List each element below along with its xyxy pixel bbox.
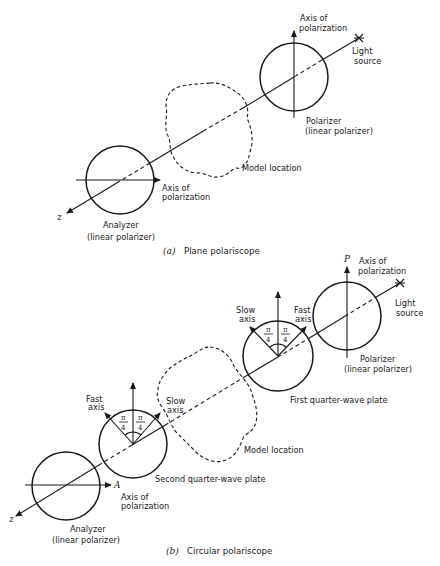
first-quarter-wave-plate: π 4 π 4 Slow axis Fast axis First quarte… — [236, 292, 388, 405]
first-qwp-slow-axis-arrow — [250, 327, 278, 356]
polarizer-label-a1: Polarizer — [306, 116, 342, 126]
light-source-label-a1: Light — [352, 46, 373, 56]
caption-letter-a: (a) — [163, 246, 176, 256]
second-quarter-wave-plate: π 4 π 4 Fast axis Slow axis Second quart… — [86, 383, 265, 484]
analyzer-label-b1: Analyzer — [70, 524, 106, 534]
model-location-label-a: Model location — [242, 163, 302, 173]
polarizer-axis-label-b2: polarization — [358, 266, 406, 276]
z-axis-label-a: z — [56, 212, 62, 222]
second-qwp-label: Second quarter-wave plate — [155, 474, 265, 484]
second-qwp-angle-right-den: 4 — [138, 424, 143, 432]
light-source-star-icon — [395, 279, 405, 287]
light-source-label-b1: Light — [395, 298, 416, 308]
polarizer-label-b1: Polarizer — [360, 354, 396, 364]
second-qwp-fast-axis-arrow — [105, 413, 133, 444]
circular-polariscope: Light source P Axis of polarization Pola… — [8, 254, 423, 556]
analyzer-axis-label-a2: polarization — [162, 192, 210, 202]
p-label: P — [343, 254, 351, 264]
caption-letter-b: (b) — [166, 546, 179, 556]
analyzer-circle-b — [32, 452, 100, 520]
polarizer-axis-label-b1: Axis of — [359, 256, 388, 266]
analyzer-label-a2: (linear polarizer) — [87, 232, 155, 242]
first-qwp-slow-label-2: axis — [239, 314, 255, 324]
first-qwp-label: First quarter-wave plate — [290, 395, 388, 405]
light-source-label-b2: source — [396, 308, 423, 318]
light-source-label-a2: source — [354, 56, 381, 66]
plane-polariscope: Light source Axis of polarization Polari… — [56, 13, 381, 256]
second-qwp-angle-left-num: π — [121, 414, 126, 422]
first-qwp-angle-left-den: 4 — [266, 336, 271, 344]
second-qwp-slow-label-2: axis — [167, 405, 183, 415]
analyzer-axis-label-b2: polarization — [121, 501, 169, 511]
second-qwp-angle-right-num: π — [138, 414, 143, 422]
first-qwp-angle-right-num: π — [283, 326, 288, 334]
first-qwp-fast-label-2: axis — [295, 314, 311, 324]
analyzer-label-a1: Analyzer — [103, 220, 139, 230]
caption-a: Plane polariscope — [184, 246, 260, 256]
z-axis-label-b: z — [8, 514, 14, 524]
a-label: A — [113, 480, 121, 490]
first-qwp-angle-left-num: π — [266, 326, 271, 334]
second-qwp-angle-left-den: 4 — [121, 424, 126, 432]
second-qwp-fast-label-2: axis — [88, 402, 104, 412]
analyzer-label-b2: (linear polarizer) — [52, 535, 120, 545]
model-location-blob-a — [166, 83, 252, 177]
polariscope-diagram: Light source Axis of polarization Polari… — [0, 0, 440, 566]
first-qwp-angle-right-den: 4 — [283, 336, 288, 344]
polarizer-label-a2: (linear polarizer) — [305, 126, 373, 136]
model-location-label-b: Model location — [244, 445, 304, 455]
polarizer-axis-label-a1: Axis of — [300, 13, 329, 23]
polarizer-label-b2: (linear polarizer) — [344, 364, 412, 374]
caption-b: Circular polariscope — [187, 546, 272, 556]
polarizer-axis-label-a2: polarization — [299, 23, 347, 33]
light-source-star-icon — [354, 34, 364, 42]
